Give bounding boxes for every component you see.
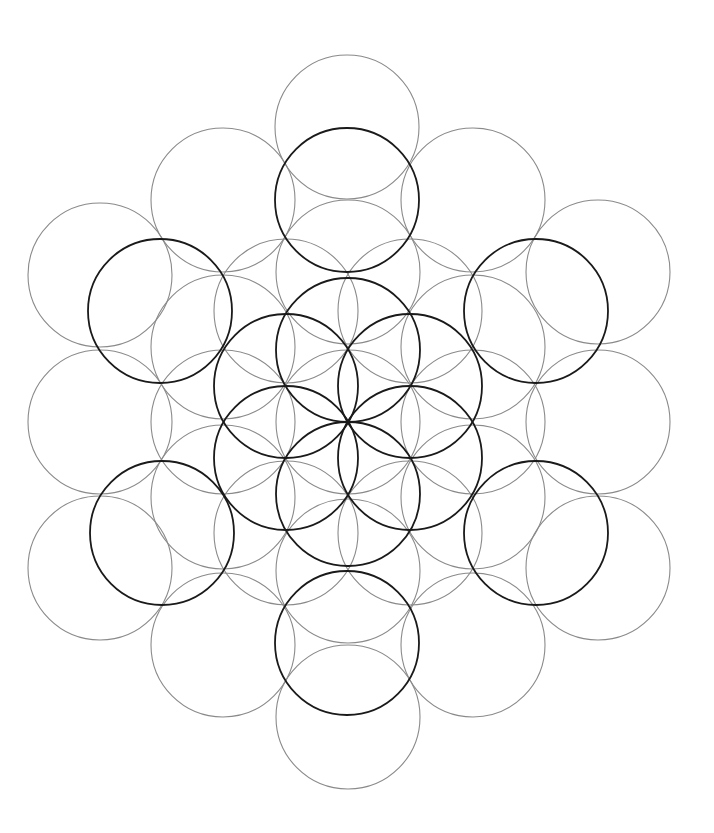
- dark-circle: [88, 239, 232, 383]
- light-circle: [338, 239, 482, 383]
- light-circle: [151, 425, 295, 569]
- light-circle: [28, 350, 172, 494]
- dark-circle: [464, 461, 608, 605]
- light-circle: [401, 128, 545, 272]
- light-circle: [151, 573, 295, 717]
- light-circle: [526, 200, 670, 344]
- light-circle: [275, 55, 419, 199]
- dark-circle: [90, 461, 234, 605]
- light-circle: [28, 203, 172, 347]
- light-circle: [338, 461, 482, 605]
- light-circle: [151, 128, 295, 272]
- flower-of-life-diagram: [0, 0, 714, 833]
- light-circle: [401, 573, 545, 717]
- dark-circle: [464, 239, 608, 383]
- light-circle: [214, 461, 358, 605]
- light-circle: [276, 645, 420, 789]
- light-circle: [526, 350, 670, 494]
- light-circle: [214, 239, 358, 383]
